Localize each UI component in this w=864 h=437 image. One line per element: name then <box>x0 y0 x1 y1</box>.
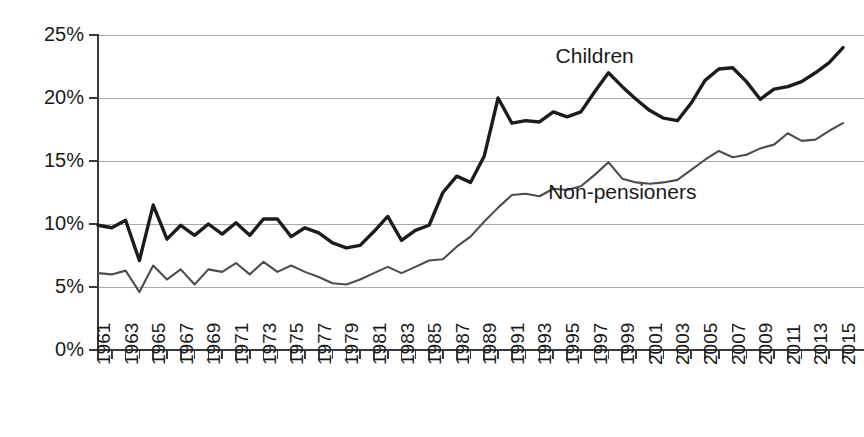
y-tick-label-25: 25% <box>44 23 84 45</box>
x-tick-label-2003: 2003 <box>672 323 693 365</box>
x-tick-label-2005: 2005 <box>700 323 721 365</box>
x-tick-label-1979: 1979 <box>341 323 362 365</box>
x-tick-label-2007: 2007 <box>728 323 749 365</box>
series-annotation-children: Children <box>556 44 634 67</box>
y-tick-label-10: 10% <box>44 212 84 234</box>
series-line-non-pensioners <box>98 123 843 292</box>
y-tick-group <box>89 35 98 350</box>
x-tick-label-1999: 1999 <box>617 323 638 365</box>
series-annotation-non-pensioners: Non-pensioners <box>548 180 696 203</box>
x-tick-label-1961: 1961 <box>93 323 114 365</box>
chart-canvas: 0%5%10%15%20%25% 19611963196519671969197… <box>0 0 864 437</box>
x-tick-label-2013: 2013 <box>810 323 831 365</box>
y-tick-label-5: 5% <box>55 275 84 297</box>
y-tick-labels-group: 0%5%10%15%20%25% <box>44 23 84 360</box>
x-tick-label-1965: 1965 <box>148 323 169 365</box>
x-tick-label-1963: 1963 <box>121 323 142 365</box>
x-tick-label-2011: 2011 <box>783 324 804 365</box>
x-tick-label-1967: 1967 <box>176 323 197 365</box>
x-tick-label-2009: 2009 <box>755 323 776 365</box>
y-tick-label-15: 15% <box>44 149 84 171</box>
x-tick-label-1981: 1981 <box>369 323 390 365</box>
x-tick-label-1991: 1991 <box>507 323 528 365</box>
x-tick-label-2015: 2015 <box>838 323 859 365</box>
line-chart: 0%5%10%15%20%25% 19611963196519671969197… <box>0 0 864 437</box>
x-tick-label-1969: 1969 <box>203 323 224 365</box>
x-tick-label-1993: 1993 <box>534 323 555 365</box>
x-tick-label-1985: 1985 <box>424 323 445 365</box>
x-tick-label-1987: 1987 <box>452 323 473 365</box>
series-annotations-group: ChildrenNon-pensioners <box>548 44 696 203</box>
x-tick-labels-group: 1961196319651967196919711973197519771979… <box>93 323 859 365</box>
y-tick-label-20: 20% <box>44 86 84 108</box>
x-tick-label-1995: 1995 <box>562 323 583 365</box>
x-tick-label-1977: 1977 <box>314 323 335 365</box>
x-tick-label-1975: 1975 <box>286 323 307 365</box>
gridlines-group <box>98 35 864 350</box>
x-tick-label-1997: 1997 <box>590 323 611 365</box>
x-tick-label-2001: 2001 <box>645 323 666 365</box>
series-group <box>98 48 843 292</box>
y-tick-label-0: 0% <box>55 338 84 360</box>
x-tick-label-1971: 1971 <box>231 323 252 365</box>
x-tick-label-1983: 1983 <box>397 323 418 365</box>
x-tick-label-1989: 1989 <box>479 323 500 365</box>
series-line-children <box>98 48 843 261</box>
x-tick-label-1973: 1973 <box>259 323 280 365</box>
